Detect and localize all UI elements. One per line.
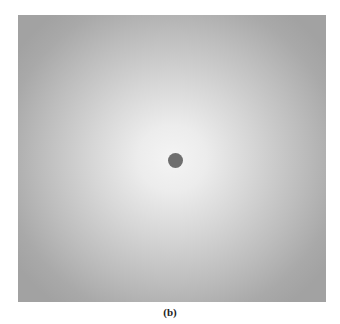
figure-caption: (b) xyxy=(0,306,340,318)
radial-gradient-image xyxy=(18,15,326,302)
center-dot xyxy=(168,153,183,168)
